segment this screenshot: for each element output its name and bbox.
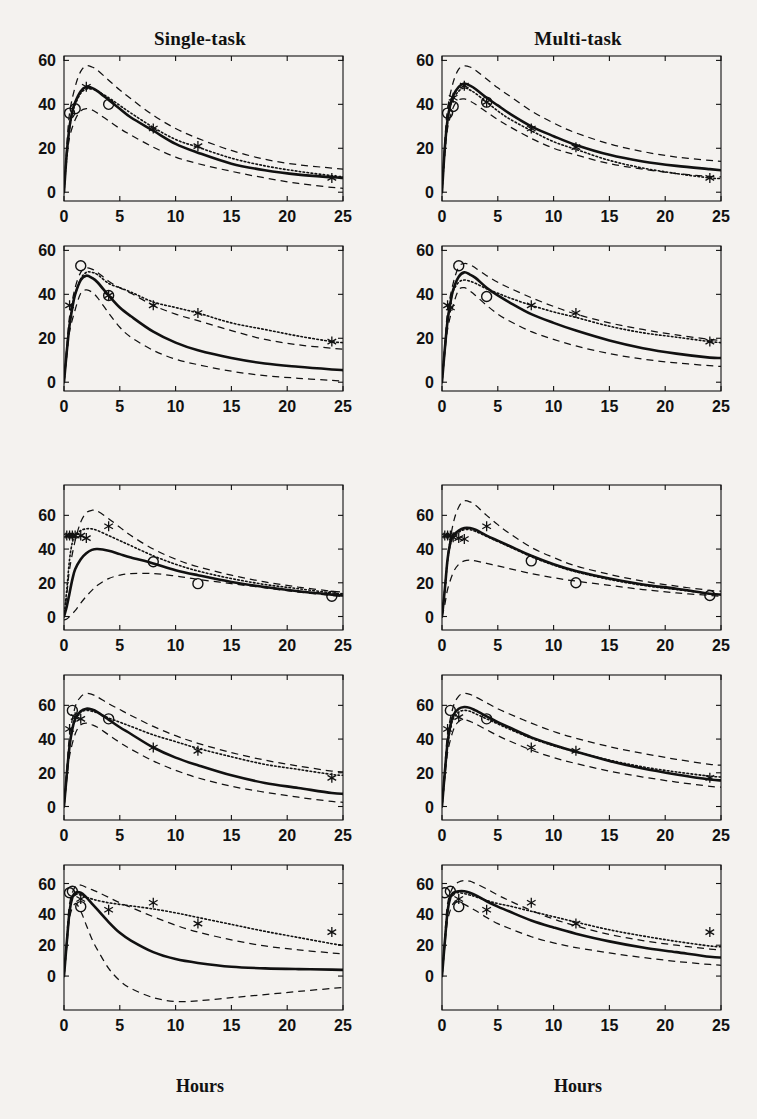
x-tick-label: 0 (438, 1017, 447, 1034)
panel-frame (64, 675, 343, 820)
curve-lower-bound (442, 720, 721, 807)
x-tick-label: 15 (601, 208, 619, 225)
y-tick-label: 60 (38, 52, 56, 69)
curve-lower-bound (442, 902, 721, 976)
curve-individual-prediction (64, 529, 343, 617)
data-point-asterisk (482, 521, 491, 531)
y-tick-label: 20 (38, 937, 56, 954)
x-tick-label: 20 (656, 398, 674, 415)
x-tick-label: 5 (115, 208, 124, 225)
x-tick-label: 20 (278, 398, 296, 415)
curve-population-prediction (442, 528, 721, 617)
x-tick-label: 0 (60, 398, 69, 415)
data-point-circle (67, 705, 77, 715)
x-tick-label: 10 (167, 398, 185, 415)
panel-plot-area (440, 501, 721, 617)
panel-r1-multi: 02040600510152025 (416, 52, 730, 225)
x-tick-label: 0 (60, 208, 69, 225)
column-title-multi-task: Multi-task (428, 28, 728, 50)
panel-plot-area (64, 261, 343, 382)
y-tick-label: 20 (38, 330, 56, 347)
x-tick-label: 0 (438, 827, 447, 844)
x-tick-label: 20 (278, 637, 296, 654)
data-point-asterisk (104, 521, 113, 531)
panel-r2-multi: 02040600510152025 (416, 242, 730, 415)
curve-individual-prediction (442, 710, 721, 806)
y-tick-label: 0 (47, 609, 56, 626)
x-tick-label: 5 (115, 637, 124, 654)
curve-lower-bound (64, 723, 343, 806)
panel-plot-area (64, 693, 343, 806)
data-point-asterisk (328, 927, 337, 937)
y-tick-label: 40 (38, 286, 56, 303)
curve-upper-bound (64, 66, 343, 193)
panel-frame (442, 865, 721, 1010)
panel-frame (442, 56, 721, 201)
data-point-circle (526, 556, 536, 566)
curve-upper-bound (64, 885, 343, 976)
x-tick-label: 25 (712, 637, 730, 654)
panel-r1-single: 02040600510152025 (38, 52, 352, 225)
y-tick-label: 40 (38, 906, 56, 923)
panel-r4-single: 02040600510152025 (38, 675, 352, 844)
x-tick-label: 15 (223, 398, 241, 415)
x-tick-label: 5 (493, 398, 502, 415)
y-tick-label: 0 (425, 799, 434, 816)
y-tick-label: 0 (47, 968, 56, 985)
y-tick-label: 40 (38, 541, 56, 558)
x-tick-label: 0 (438, 398, 447, 415)
x-tick-label: 25 (712, 827, 730, 844)
y-tick-label: 60 (416, 52, 434, 69)
panel-frame (442, 485, 721, 630)
panel-r5-single: 02040600510152025 (38, 865, 352, 1034)
x-tick-label: 10 (167, 208, 185, 225)
x-tick-label: 25 (334, 1017, 352, 1034)
panel-frame (64, 56, 343, 201)
curve-population-prediction (442, 891, 721, 976)
y-tick-label: 60 (416, 507, 434, 524)
y-tick-label: 40 (416, 541, 434, 558)
data-point-asterisk (194, 308, 203, 318)
y-tick-label: 60 (416, 242, 434, 259)
panel-r3-single: 02040600510152025 (38, 485, 352, 654)
x-tick-label: 20 (656, 1017, 674, 1034)
y-tick-label: 0 (425, 968, 434, 985)
panel-r5-multi: 02040600510152025 (416, 865, 730, 1034)
y-tick-label: 0 (47, 799, 56, 816)
x-tick-label: 10 (545, 827, 563, 844)
y-tick-label: 60 (38, 242, 56, 259)
y-tick-label: 20 (416, 575, 434, 592)
panel-frame (64, 246, 343, 391)
y-tick-label: 20 (38, 140, 56, 157)
x-tick-label: 15 (601, 398, 619, 415)
y-tick-label: 20 (416, 937, 434, 954)
panel-plot-area (62, 510, 343, 620)
y-tick-label: 0 (425, 374, 434, 391)
x-tick-label: 5 (493, 637, 502, 654)
data-point-circle (454, 261, 464, 271)
x-tick-label: 20 (278, 208, 296, 225)
x-tick-label: 0 (60, 827, 69, 844)
x-tick-label: 0 (438, 208, 447, 225)
x-tick-label: 15 (601, 1017, 619, 1034)
curve-population-prediction (64, 87, 343, 193)
y-tick-label: 60 (416, 697, 434, 714)
y-tick-label: 0 (425, 184, 434, 201)
y-tick-label: 20 (416, 330, 434, 347)
x-tick-label: 25 (334, 208, 352, 225)
y-tick-label: 20 (416, 765, 434, 782)
y-tick-label: 0 (425, 609, 434, 626)
y-tick-label: 20 (38, 765, 56, 782)
curve-upper-bound (64, 268, 343, 382)
curve-upper-bound (442, 501, 721, 617)
x-tick-label: 15 (223, 637, 241, 654)
panel-frame (64, 485, 343, 630)
x-tick-label: 15 (223, 208, 241, 225)
data-point-asterisk (194, 919, 203, 929)
curve-upper-bound (64, 510, 343, 616)
y-tick-label: 40 (416, 906, 434, 923)
curve-lower-bound (64, 573, 343, 620)
panel-plot-area (442, 66, 721, 192)
y-tick-label: 60 (416, 876, 434, 893)
x-tick-label: 25 (712, 208, 730, 225)
